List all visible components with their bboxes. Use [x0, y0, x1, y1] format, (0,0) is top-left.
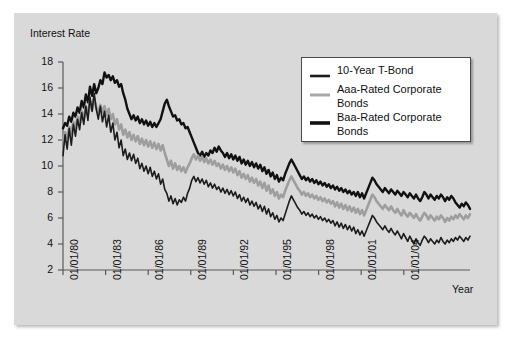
x-tick-label: 01/01/04: [409, 239, 421, 280]
x-tick-label: 01/01/01: [366, 239, 378, 280]
y-tick-label: 16: [31, 81, 53, 93]
legend-label-t-bond: 10-Year T-Bond: [337, 64, 413, 78]
legend-swatch-aaa-icon: [310, 89, 330, 101]
legend-label-baa: Baa-Rated Corporate Bonds: [337, 111, 464, 138]
y-tick-label: 18: [31, 55, 53, 67]
chart-legend[interactable]: 10-Year T-Bond Aaa-Rated Corporate Bonds…: [301, 57, 471, 142]
x-tick-label: 01/01/92: [238, 239, 250, 280]
x-tick-label: 01/01/86: [153, 239, 165, 280]
x-tick-label: 01/01/89: [196, 239, 208, 280]
legend-item-baa[interactable]: Baa-Rated Corporate Bonds: [302, 111, 470, 138]
y-tick-label: 4: [31, 237, 53, 249]
x-tick-label: 01/01/98: [324, 239, 336, 280]
legend-swatch-t-bond-icon: [310, 70, 330, 82]
y-tick-label: 14: [31, 107, 53, 119]
y-tick-label: 2: [31, 263, 53, 275]
legend-swatch-baa-icon: [310, 117, 330, 129]
legend-item-t-bond[interactable]: 10-Year T-Bond: [302, 64, 470, 82]
y-tick-label: 6: [31, 211, 53, 223]
y-tick-label: 8: [31, 185, 53, 197]
legend-item-aaa[interactable]: Aaa-Rated Corporate Bonds: [302, 83, 470, 110]
x-tick-label: 01/01/80: [68, 239, 80, 280]
chart-panel: Interest Rate Year 24681012141618 01/01/…: [14, 13, 497, 325]
x-tick-label: 01/01/83: [111, 239, 123, 280]
legend-label-aaa: Aaa-Rated Corporate Bonds: [337, 83, 464, 110]
y-tick-label: 12: [31, 133, 53, 145]
x-tick-label: 01/01/95: [281, 239, 293, 280]
y-tick-label: 10: [31, 159, 53, 171]
